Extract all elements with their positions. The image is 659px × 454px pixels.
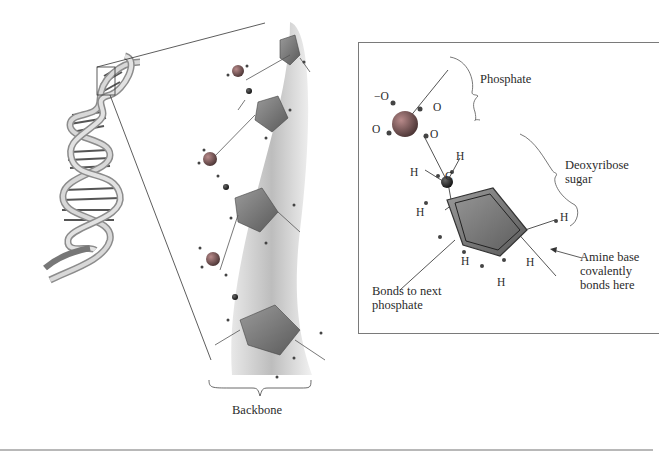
atom-ring-h-bottom1: H [461, 255, 469, 267]
bonds-to-next-phosphate-label: Bonds to next phosphate [372, 284, 441, 312]
deoxyribose-label: Deoxyribose sugar [565, 158, 629, 186]
atom-ring-h-left: H [416, 206, 424, 218]
atom-ring-h-right: H [560, 211, 568, 223]
double-helix [45, 56, 140, 280]
atom-ring-h-bottom3: H [497, 276, 505, 288]
phosphate-label: Phosphate [480, 72, 531, 86]
atom-o-minus: −O [374, 90, 389, 102]
atom-h-upper: H [456, 150, 464, 162]
atom-h-left: H [410, 166, 418, 178]
atom-c: C [445, 170, 453, 182]
backbone-label: Backbone [232, 403, 282, 417]
amine-base-label: Amine base covalently bonds here [580, 250, 639, 292]
atom-ring-h-bottom2: H [526, 256, 534, 268]
atom-o-top-right: O [433, 101, 441, 113]
atom-o-lower-right: O [430, 128, 438, 140]
atom-o-left: O [372, 123, 380, 135]
bottom-divider [0, 449, 653, 451]
backbone-brace [209, 380, 311, 396]
